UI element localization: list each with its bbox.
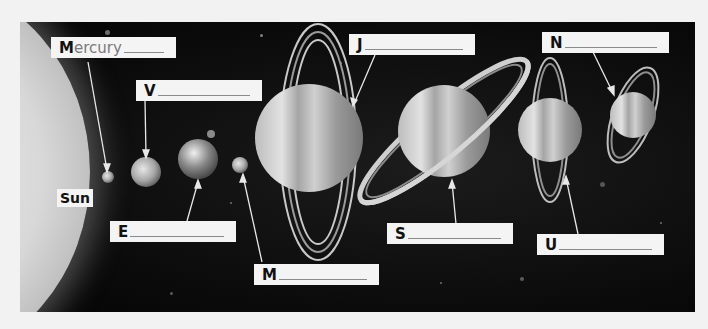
mars-planet-icon [232, 157, 248, 173]
label-letter: N [550, 34, 563, 52]
sun-label: Sun [57, 189, 93, 207]
label-saturn[interactable]: S [387, 223, 513, 244]
neptune-planet-icon [610, 92, 656, 138]
label-mercury[interactable]: M ercury [51, 37, 176, 58]
answer-line [130, 236, 224, 237]
label-letter: S [395, 225, 406, 243]
label-jupiter[interactable]: J [349, 34, 475, 55]
label-letter: U [545, 236, 557, 254]
uranus-planet-icon [518, 98, 582, 162]
moon-icon [207, 130, 215, 138]
venus-planet-icon [131, 157, 161, 187]
answer-line [158, 95, 250, 96]
label-neptune[interactable]: N [542, 32, 669, 53]
mercury-planet-icon [102, 171, 114, 183]
answer-line [365, 49, 463, 50]
label-letter: M [262, 266, 277, 284]
answer-line [565, 47, 657, 48]
label-earth[interactable]: E [110, 221, 236, 242]
label-letter: M [59, 39, 74, 57]
label-uranus[interactable]: U [537, 234, 664, 255]
label-letter: J [357, 36, 363, 54]
label-letter: V [144, 82, 156, 100]
earth-planet-icon [178, 139, 218, 179]
answer-line [279, 279, 367, 280]
label-mars[interactable]: M [254, 264, 379, 285]
jupiter-planet-icon [255, 84, 363, 192]
answer-line [124, 52, 164, 53]
label-venus[interactable]: V [136, 80, 262, 101]
label-answer-text: ercury [74, 39, 122, 57]
answer-line [408, 238, 501, 239]
answer-line [559, 249, 652, 250]
label-letter: E [118, 223, 128, 241]
